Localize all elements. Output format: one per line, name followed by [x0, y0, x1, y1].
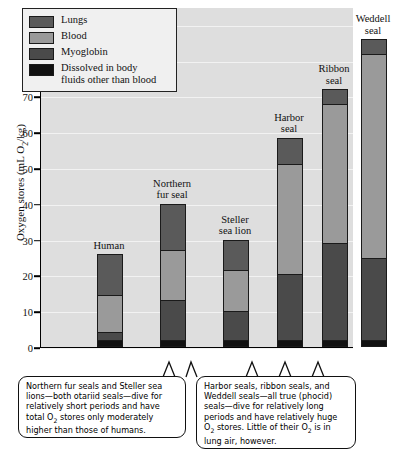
legend-label-myoglobin: Myoglobin: [61, 46, 108, 58]
legend-label-blood: Blood: [61, 30, 87, 42]
bar-segment: [322, 104, 348, 244]
bar-human: [97, 254, 123, 347]
bar-segment: [97, 295, 123, 332]
y-axis-label: Oxygen stores (mL O2/kg): [14, 73, 29, 293]
bar-label-weddell-seal: Weddell seal: [344, 13, 395, 36]
bar-segment: [277, 164, 303, 273]
callout-phocid-seals: Harbor seals, ribbon seals, and Weddell …: [196, 376, 356, 449]
y-tick-mark: [34, 204, 40, 206]
y-tick-mark: [34, 347, 40, 349]
callout-left-line2: lions—both otariid seals—dive for: [26, 391, 179, 401]
gridline: [41, 169, 353, 170]
bar-segment: [160, 250, 186, 300]
callout-left-line3: relatively short periods and have: [26, 401, 179, 411]
callout-right-line1: Harbor seals, ribbon seals, and: [204, 381, 349, 391]
legend-swatch-lungs: [29, 16, 54, 28]
bar-segment: [160, 204, 186, 251]
y-tick-mark: [34, 132, 40, 134]
callout-right-line6: lung air, however.: [204, 436, 349, 446]
gridline: [41, 276, 353, 277]
bar-segment: [223, 311, 249, 340]
callout-otariid-seals: Northern fur seals and Steller sea lions…: [18, 376, 186, 438]
bar-segment: [277, 340, 303, 347]
bar-harbor-seal: [277, 138, 303, 347]
legend-swatch-dissolved: [29, 64, 54, 76]
callout-left-line5: higher than those of humans.: [26, 425, 179, 435]
gridline: [41, 97, 353, 98]
bar-label-steller-sea-lion: Steller sea lion: [206, 214, 264, 237]
bar-steller-sea-lion: [223, 240, 249, 347]
bar-segment: [223, 240, 249, 270]
y-tick-mark: [34, 240, 40, 242]
bar-label-human: Human: [80, 240, 138, 252]
gridline: [41, 348, 353, 349]
bar-label-ribbon-seal: Ribbon seal: [305, 63, 363, 86]
y-tick-mark: [34, 168, 40, 170]
callout-left-line1: Northern fur seals and Steller sea: [26, 381, 179, 391]
y-tick-mark: [34, 276, 40, 278]
bar-label-northern-fur-seal: Northern fur seal: [143, 178, 201, 201]
bar-segment: [160, 300, 186, 339]
bar-segment: [223, 340, 249, 347]
bar-northern-fur-seal: [160, 204, 186, 347]
legend-swatch-blood: [29, 32, 54, 44]
bar-segment: [361, 258, 387, 340]
legend-item-lungs: Lungs: [29, 14, 170, 28]
legend-label-dissolved: Dissolved in body fluids other than bloo…: [61, 62, 156, 85]
bar-segment: [322, 89, 348, 103]
bar-ribbon-seal: [322, 89, 348, 347]
legend-swatch-myoglobin: [29, 48, 54, 60]
bar-segment: [361, 39, 387, 53]
bar-segment: [97, 332, 123, 340]
bar-segment: [223, 270, 249, 311]
bar-segment: [322, 340, 348, 347]
bar-segment: [277, 274, 303, 340]
legend: Lungs Blood Myoglobin Dissolved in body …: [22, 8, 177, 92]
callout-right-line2: Weddell seals—all true (phocid): [204, 391, 349, 401]
y-tick-mark: [34, 311, 40, 313]
legend-item-myoglobin: Myoglobin: [29, 46, 170, 60]
legend-item-dissolved: Dissolved in body fluids other than bloo…: [29, 62, 170, 85]
y-tick-mark: [34, 97, 40, 99]
gridline: [41, 312, 353, 313]
gridline: [41, 205, 353, 206]
bar-segment: [97, 340, 123, 347]
callout-left-line4: total O2 stores only moderately: [26, 412, 179, 426]
bar-segment: [160, 340, 186, 347]
bar-label-harbor-seal: Harbor seal: [260, 112, 318, 135]
bar-weddell-seal: [361, 39, 387, 347]
callout-right-line3: seals—dive for relatively long: [204, 401, 349, 411]
bar-segment: [97, 254, 123, 295]
legend-item-blood: Blood: [29, 30, 170, 44]
legend-label-lungs: Lungs: [61, 14, 87, 26]
callout-right-line5: O2 stores. Little of their O2 is in: [204, 422, 349, 436]
bar-segment: [361, 54, 387, 258]
callout-right-line4: periods and have relatively huge: [204, 412, 349, 422]
bar-segment: [322, 243, 348, 340]
bar-segment: [277, 138, 303, 165]
bar-segment: [361, 340, 387, 347]
